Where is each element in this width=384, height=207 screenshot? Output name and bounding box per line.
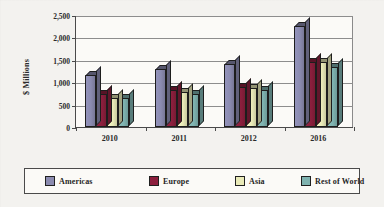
legend-item-asia[interactable]: Asia bbox=[235, 176, 265, 186]
bar-side-face bbox=[166, 60, 171, 126]
bar-side-face bbox=[107, 85, 112, 126]
chart-legend: AmericasEuropeAsiaRest of World bbox=[24, 168, 360, 194]
legend-label: Asia bbox=[249, 177, 265, 186]
y-tick-label: 0 bbox=[36, 124, 70, 133]
bar-side-face bbox=[129, 89, 134, 126]
legend-item-europe[interactable]: Europe bbox=[149, 176, 189, 186]
x-tick-label-2016: 2016 bbox=[288, 134, 348, 143]
gridline bbox=[76, 38, 353, 39]
x-tick-mark bbox=[215, 127, 216, 131]
x-tick-mark bbox=[354, 127, 355, 131]
y-tick-mark bbox=[72, 16, 76, 17]
bar-side-face bbox=[235, 55, 240, 126]
bar-side-face bbox=[338, 58, 343, 126]
legend-item-americas[interactable]: Americas bbox=[45, 176, 93, 186]
y-tick-label: 2,500 bbox=[36, 12, 70, 21]
bar-americas-2012 bbox=[224, 64, 235, 127]
bar-side-face bbox=[177, 81, 182, 126]
bar-side-face bbox=[188, 83, 193, 126]
bar-side-face bbox=[96, 66, 101, 126]
bar-side-face bbox=[327, 53, 332, 126]
y-tick-mark bbox=[72, 106, 76, 107]
y-tick-label: 1,000 bbox=[36, 79, 70, 88]
bar-side-face bbox=[316, 53, 321, 126]
legend-swatch-icon bbox=[301, 176, 311, 186]
legend-label: Americas bbox=[59, 177, 93, 186]
x-tick-label-2012: 2012 bbox=[219, 134, 279, 143]
x-tick-label-2011: 2011 bbox=[149, 134, 209, 143]
x-tick-label-2010: 2010 bbox=[80, 134, 140, 143]
y-tick-label: 2,000 bbox=[36, 34, 70, 43]
bar-side-face bbox=[199, 85, 204, 126]
legend-swatch-icon bbox=[149, 176, 159, 186]
bar-americas-2016 bbox=[294, 26, 305, 127]
plot-right-border bbox=[352, 16, 353, 127]
bar-chart: $ Millions 05001,0001,5002,0002,500 2010… bbox=[0, 0, 384, 163]
x-tick-mark bbox=[76, 127, 77, 131]
bar-americas-2011 bbox=[155, 69, 166, 127]
x-tick-mark bbox=[146, 127, 147, 131]
y-tick-label: 500 bbox=[36, 101, 70, 110]
y-axis-tick-labels: 05001,0001,5002,0002,500 bbox=[30, 0, 70, 163]
x-tick-mark bbox=[285, 127, 286, 131]
y-tick-mark bbox=[72, 38, 76, 39]
bar-americas-2010 bbox=[85, 75, 96, 127]
legend-swatch-icon bbox=[235, 176, 245, 186]
bar-side-face bbox=[246, 78, 251, 126]
legend-label: Rest of World bbox=[315, 177, 364, 186]
legend-swatch-icon bbox=[45, 176, 55, 186]
bar-side-face bbox=[268, 81, 273, 126]
chart-page: $ Millions 05001,0001,5002,0002,500 2010… bbox=[0, 0, 384, 207]
bar-side-face bbox=[118, 89, 123, 126]
legend-label: Europe bbox=[163, 177, 189, 186]
legend-item-rest-of-world[interactable]: Rest of World bbox=[301, 176, 364, 186]
plot-area bbox=[75, 16, 353, 128]
bar-side-face bbox=[257, 79, 262, 126]
y-tick-mark bbox=[72, 83, 76, 84]
y-tick-label: 1,500 bbox=[36, 56, 70, 65]
gridline bbox=[76, 16, 353, 17]
y-tick-mark bbox=[72, 61, 76, 62]
bar-side-face bbox=[305, 17, 310, 126]
